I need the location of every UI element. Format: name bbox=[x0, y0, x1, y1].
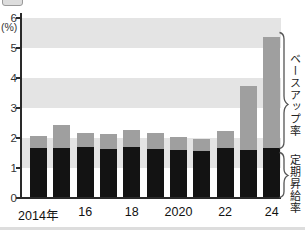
bar-2020-teiki-segment bbox=[170, 150, 187, 197]
bar-2017-base-up-segment bbox=[100, 134, 117, 149]
bar-2022-base-up-segment bbox=[217, 131, 234, 148]
bar-2019-base-up-segment bbox=[147, 133, 164, 150]
base-up-rate-label: ベースアップ率 bbox=[288, 53, 301, 137]
teiki-shokyu-rate-label: 定期昇給率 bbox=[288, 154, 301, 214]
figure-bottom-border bbox=[0, 227, 305, 230]
bar-2022-teiki-segment bbox=[217, 148, 234, 197]
wage-hike-stacked-bar-chart: 6543210 (%) 2014年161820202224 ベースアップ率 定期… bbox=[0, 0, 305, 230]
bar-2016-base-up-segment bbox=[77, 133, 94, 147]
bar-2023-teiki-segment bbox=[240, 150, 257, 197]
bar-2023 bbox=[240, 86, 257, 197]
x-label-22: 22 bbox=[202, 205, 248, 219]
y-label-5: 5 bbox=[0, 42, 17, 55]
y-axis-unit-label: (%) bbox=[1, 21, 17, 33]
bar-2017 bbox=[100, 134, 117, 197]
band-5-6 bbox=[22, 18, 281, 48]
y-label-3: 3 bbox=[0, 102, 17, 115]
bar-2014-teiki-segment bbox=[30, 148, 47, 197]
bar-2023-base-up-segment bbox=[240, 86, 257, 150]
bar-2022 bbox=[217, 131, 234, 197]
bar-2014 bbox=[30, 136, 47, 198]
base-up-bracket bbox=[280, 33, 289, 149]
bar-2014-base-up-segment bbox=[30, 136, 47, 149]
x-label-2014年: 2014年 bbox=[16, 205, 62, 224]
bar-2020-base-up-segment bbox=[170, 137, 187, 150]
bar-2016-teiki-segment bbox=[77, 147, 94, 197]
x-label-18: 18 bbox=[109, 205, 155, 219]
bar-2019 bbox=[147, 133, 164, 198]
bar-2019-teiki-segment bbox=[147, 149, 164, 197]
bar-2015 bbox=[53, 125, 70, 197]
y-label-1: 1 bbox=[0, 162, 17, 175]
y-label-2: 2 bbox=[0, 132, 17, 145]
x-label-16: 16 bbox=[62, 205, 108, 219]
bar-2021-base-up-segment bbox=[193, 139, 210, 151]
bar-2018-base-up-segment bbox=[123, 130, 140, 147]
bar-2021-teiki-segment bbox=[193, 151, 210, 197]
y-label-0: 0 bbox=[0, 192, 17, 205]
bar-2017-teiki-segment bbox=[100, 149, 117, 197]
bar-2018-teiki-segment bbox=[123, 147, 140, 197]
x-label-2020: 2020 bbox=[155, 205, 201, 219]
bar-2015-base-up-segment bbox=[53, 125, 70, 148]
bar-2015-teiki-segment bbox=[53, 148, 70, 197]
bar-2016 bbox=[77, 133, 94, 198]
cropped-label-remnant bbox=[2, 0, 23, 6]
bar-2021 bbox=[193, 139, 210, 197]
y-label-4: 4 bbox=[0, 72, 17, 85]
x-axis-line bbox=[20, 197, 281, 199]
bar-2018 bbox=[123, 130, 140, 197]
teiki-bracket bbox=[280, 153, 289, 198]
bar-2020 bbox=[170, 137, 187, 197]
y-axis-line bbox=[20, 13, 22, 199]
